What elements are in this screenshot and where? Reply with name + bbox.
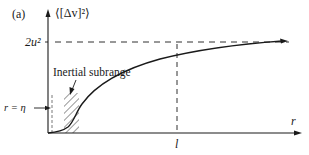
x-axis-label: r xyxy=(291,115,296,127)
level-label: 2u² xyxy=(25,36,41,48)
region-label: Inertial subrange xyxy=(53,66,131,78)
curve-arrow-icon xyxy=(280,39,288,44)
structure-function-diagram xyxy=(0,0,309,155)
panel-label: (a) xyxy=(12,8,25,20)
x-axis xyxy=(48,131,302,136)
eta-label: r = η xyxy=(4,102,26,114)
structure-function-curve xyxy=(48,41,282,133)
x-marker-label: l xyxy=(175,138,178,150)
y-axis xyxy=(46,9,51,133)
y-axis-label: ⟨[Δv]²⟩ xyxy=(55,7,90,19)
y-axis-arrow-icon xyxy=(46,9,51,17)
region-pointer xyxy=(70,80,77,95)
x-axis-arrow-icon xyxy=(294,131,302,136)
